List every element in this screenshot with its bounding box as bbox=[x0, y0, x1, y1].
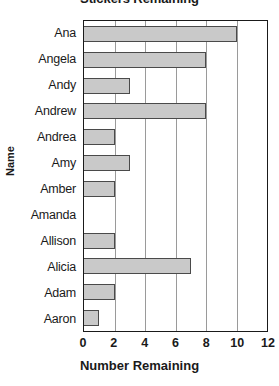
bar-slot bbox=[84, 305, 267, 331]
y-axis-tick-labels: AnaAngelaAndyAndrewAndreaAmyAmberAmandaA… bbox=[18, 20, 80, 332]
x-axis-tick-labels: 024681012 bbox=[83, 336, 268, 352]
y-axis-tick-label: Adam bbox=[18, 280, 80, 306]
y-axis-tick-label: Ana bbox=[18, 20, 80, 46]
bar-slot bbox=[84, 202, 267, 228]
bar[interactable] bbox=[84, 310, 99, 326]
y-axis-title: Name bbox=[4, 133, 16, 189]
x-axis-tick-label: 4 bbox=[141, 336, 148, 350]
y-axis-tick-label: Amy bbox=[18, 150, 80, 176]
y-axis-tick-label: Angela bbox=[18, 46, 80, 72]
x-axis-tick-label: 10 bbox=[230, 336, 244, 350]
bar[interactable] bbox=[84, 181, 115, 197]
bar[interactable] bbox=[84, 129, 115, 145]
y-axis-tick-label: Allison bbox=[18, 228, 80, 254]
bar-slot bbox=[84, 73, 267, 99]
bar[interactable] bbox=[84, 103, 206, 119]
bar-slot bbox=[84, 98, 267, 124]
y-axis-tick-label: Alicia bbox=[18, 254, 80, 280]
bar[interactable] bbox=[84, 233, 115, 249]
y-axis-tick-label: Andrea bbox=[18, 124, 80, 150]
bar-slot bbox=[84, 253, 267, 279]
y-axis-tick-label: Aaron bbox=[18, 306, 80, 332]
bar-slot bbox=[84, 228, 267, 254]
y-axis-tick-label: Andrew bbox=[18, 98, 80, 124]
x-axis-tick-label: 8 bbox=[203, 336, 210, 350]
y-axis-tick-label: Andy bbox=[18, 72, 80, 98]
chart-title: Stickers Remaining bbox=[0, 0, 279, 6]
x-axis-tick-label: 2 bbox=[110, 336, 117, 350]
bar-chart: Stickers Remaining Name AnaAngelaAndyAnd… bbox=[0, 0, 279, 386]
x-axis-tick-label: 0 bbox=[80, 336, 87, 350]
bars-layer bbox=[84, 21, 267, 331]
bar-slot bbox=[84, 47, 267, 73]
bar[interactable] bbox=[84, 78, 130, 94]
bar-slot bbox=[84, 279, 267, 305]
bar[interactable] bbox=[84, 26, 237, 42]
bar-slot bbox=[84, 124, 267, 150]
y-axis-tick-label: Amber bbox=[18, 176, 80, 202]
bar-slot bbox=[84, 176, 267, 202]
y-axis-tick-label: Amanda bbox=[18, 202, 80, 228]
x-axis-tick-label: 6 bbox=[172, 336, 179, 350]
x-axis-tick-label: 12 bbox=[261, 336, 275, 350]
bar[interactable] bbox=[84, 52, 206, 68]
plot-area bbox=[83, 20, 268, 332]
x-axis-title: Number Remaining bbox=[0, 358, 279, 373]
bar-slot bbox=[84, 21, 267, 47]
bar-slot bbox=[84, 150, 267, 176]
bar[interactable] bbox=[84, 284, 115, 300]
bar[interactable] bbox=[84, 258, 191, 274]
bar[interactable] bbox=[84, 155, 130, 171]
